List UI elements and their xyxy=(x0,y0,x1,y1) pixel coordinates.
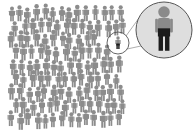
crowd-person-icon xyxy=(9,6,15,21)
crowd-person-icon xyxy=(35,113,42,130)
crowd-person-icon xyxy=(38,17,44,32)
crowd-person-icon xyxy=(27,87,33,103)
connector-line-bottom xyxy=(127,46,141,49)
crowd-person-icon xyxy=(8,110,14,126)
crowd-person-icon xyxy=(117,85,124,101)
crowd-person-icon xyxy=(86,43,92,58)
crowd-person-icon xyxy=(107,84,114,101)
crowd-person-icon xyxy=(17,113,24,130)
crowd-person-icon xyxy=(42,4,49,20)
crowd-person-icon xyxy=(18,59,24,75)
crowd-person-icon xyxy=(76,113,82,128)
crowd-person-icon xyxy=(13,43,19,58)
crowd-person-icon xyxy=(62,72,68,87)
highlighted-person xyxy=(115,36,120,49)
crowd-person-icon xyxy=(8,83,15,100)
crowd-person-icon xyxy=(113,74,119,89)
crowd-person-icon xyxy=(29,44,35,59)
crowd-person-icon xyxy=(100,111,107,128)
crowd-illustration xyxy=(0,0,196,136)
crowd-person-icon xyxy=(116,55,123,72)
crowd-person-icon xyxy=(95,20,102,37)
crowd-person-icon xyxy=(68,112,74,127)
crowd-person-icon xyxy=(83,5,90,21)
crowd-person-icon xyxy=(85,31,91,46)
crowd-person-icon xyxy=(92,5,98,20)
crowd-person-icon xyxy=(102,6,108,21)
crowd-person-icon xyxy=(13,98,19,113)
crowd-person-icon xyxy=(42,114,48,129)
crowd-person-icon xyxy=(53,47,59,63)
crowd-person-icon xyxy=(95,43,102,59)
crowd-person-icon xyxy=(33,4,40,21)
crowd-person-icon xyxy=(51,60,57,76)
crowd-person-icon xyxy=(59,6,65,21)
crowd-person-icon xyxy=(63,44,70,61)
crowd-person-icon xyxy=(76,34,82,49)
crowd-person-icon xyxy=(71,99,77,114)
crowd-person-icon xyxy=(50,112,56,127)
crowd-person-icon xyxy=(60,31,66,46)
crowd-person-icon xyxy=(16,5,23,21)
crowd-person-icon xyxy=(71,72,77,87)
crowd-person-icon xyxy=(109,5,115,20)
crowd-person-icon xyxy=(66,87,73,103)
crowd-group xyxy=(8,4,126,130)
